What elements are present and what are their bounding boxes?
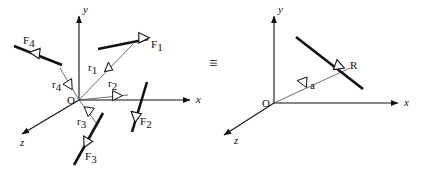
r2-label: r2 [108, 77, 117, 92]
position-vector-r1: r1 [79, 44, 133, 100]
r3-arrowhead [84, 107, 94, 117]
left-diagram: y x z O r1 F1 [14, 3, 201, 165]
a-arrowhead [297, 77, 307, 87]
force-vector-F1: F1 [98, 33, 163, 53]
force-vector-F2: F2 [131, 82, 151, 132]
R-label: R [350, 59, 358, 71]
left-x-axis-label: x [195, 93, 201, 105]
left-axes: y x z O [19, 3, 201, 148]
left-y-axis-label: y [82, 3, 88, 15]
F4-label: F4 [23, 34, 35, 49]
figure-canvas: y x z O r1 F1 [0, 0, 423, 180]
F1-arrowhead [139, 33, 150, 43]
equivalence-symbol: ≡ [209, 55, 217, 71]
F2-label: F2 [140, 115, 152, 130]
right-origin-label: O [262, 97, 270, 109]
left-origin-label: O [67, 94, 75, 106]
R-arrowhead [333, 60, 344, 70]
right-axes: y x z O [224, 3, 409, 146]
right-z-axis-label: z [233, 134, 239, 146]
position-vector-a: a [274, 68, 350, 103]
r1-label: r1 [88, 61, 97, 76]
position-vector-r2: r2 [79, 77, 128, 101]
F1-label: F1 [151, 38, 163, 53]
right-x-axis-label: x [403, 96, 409, 108]
r2-arrowhead [113, 91, 123, 101]
r1-arrowhead [103, 62, 112, 72]
F4-arrowhead [29, 48, 40, 58]
r4-label: r4 [52, 78, 62, 93]
left-z-axis-label: z [19, 136, 25, 148]
right-y-axis-label: y [277, 3, 283, 15]
F3-label: F3 [85, 150, 97, 165]
a-label: a [310, 79, 315, 91]
force-vector-F4: F4 [14, 34, 62, 65]
right-diagram: y x z O a R [224, 3, 409, 146]
force-system-equivalence-figure: y x z O r1 F1 [0, 0, 423, 180]
position-vector-r3: r3 [77, 100, 97, 130]
r3-label: r3 [77, 115, 87, 130]
